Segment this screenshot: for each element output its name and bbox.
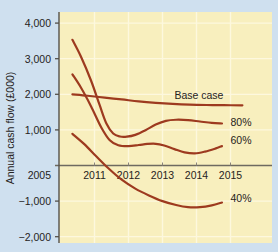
y-tick-label: −2,000 xyxy=(19,231,52,243)
chart-svg: 4,0003,0002,0001,000−1,000−2,00020052011… xyxy=(0,0,278,252)
y-axis-title: Annual cash flow (£000) xyxy=(4,72,16,185)
x-tick-label: 2011 xyxy=(83,169,106,181)
y-tick-label: 3,000 xyxy=(25,53,51,65)
y-tick-label: 2,000 xyxy=(25,88,51,100)
x-tick-label: 2013 xyxy=(151,169,175,181)
cash-flow-chart: 4,0003,0002,0001,000−1,000−2,00020052011… xyxy=(0,0,278,252)
x-tick-label: 2015 xyxy=(219,169,243,181)
x-tick-label: 2014 xyxy=(185,169,209,181)
series-label-40-: 40% xyxy=(231,192,252,204)
y-tick-label: −1,000 xyxy=(19,195,52,207)
y-tick-label: 1,000 xyxy=(25,124,51,136)
x-tick-label: 2005 xyxy=(28,169,52,181)
series-label-60-: 60% xyxy=(231,134,252,146)
series-label-base-case: Base case xyxy=(174,89,223,101)
y-tick-label: 4,000 xyxy=(25,17,51,29)
series-label-80-: 80% xyxy=(231,116,252,128)
